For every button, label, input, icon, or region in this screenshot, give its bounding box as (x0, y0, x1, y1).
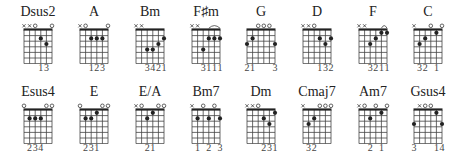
nut (303, 28, 332, 30)
chord-diagram: Bm7123 (178, 80, 234, 160)
finger-dot-icon (156, 42, 160, 46)
muted-string-icon (78, 24, 81, 27)
chord-diagram: Esus4234 (10, 80, 66, 160)
fingering-label: 3111 (178, 62, 234, 74)
finger-dot-icon (312, 116, 316, 120)
fingering-label: 13 (10, 62, 66, 74)
finger-number: 1 (377, 142, 385, 154)
nut (359, 28, 388, 30)
finger-dot-icon (245, 42, 249, 46)
finger-dot-icon (329, 36, 333, 40)
chord-diagram: F♯m3111 (178, 0, 234, 80)
finger-dot-icon (95, 36, 99, 40)
open-string-icon (363, 104, 367, 108)
nut (359, 108, 388, 110)
open-string-icon (201, 104, 205, 108)
finger-dot-icon (379, 31, 383, 35)
fretboard-grid (233, 0, 289, 64)
muted-string-icon (357, 24, 360, 27)
finger-number: 2 (205, 142, 213, 154)
fretboard-grid (233, 80, 289, 144)
nut (24, 28, 53, 30)
finger-dot-icon (201, 48, 205, 52)
finger-number: 1 (432, 62, 440, 74)
nut (80, 108, 109, 110)
finger-dot-icon (434, 111, 438, 115)
finger-dot-icon (262, 116, 266, 120)
open-string-icon (140, 104, 144, 108)
fretboard-grid (400, 0, 456, 64)
muted-string-icon (28, 24, 31, 27)
fingering-label: 321 (400, 62, 456, 74)
finger-dot-icon (418, 42, 422, 46)
finger-dot-icon (307, 122, 311, 126)
nut (136, 28, 165, 30)
nut (247, 108, 276, 110)
finger-dot-icon (218, 116, 222, 120)
fretboard-grid (289, 0, 345, 64)
finger-number: 4 (438, 142, 446, 154)
open-string-icon (157, 104, 161, 108)
finger-dot-icon (440, 122, 444, 126)
open-string-icon (256, 104, 260, 108)
finger-dot-icon (207, 116, 211, 120)
finger-dot-icon (89, 36, 93, 40)
finger-dot-icon (273, 111, 277, 115)
muted-string-icon (301, 104, 304, 107)
open-string-icon (22, 104, 26, 108)
muted-string-icon (301, 24, 304, 27)
fretboard-grid (400, 80, 456, 144)
muted-string-icon (140, 24, 143, 27)
finger-number: 1 (93, 142, 101, 154)
finger-dot-icon (318, 36, 322, 40)
finger-dot-icon (379, 111, 383, 115)
open-string-icon (423, 104, 427, 108)
open-string-icon (78, 104, 82, 108)
muted-string-icon (357, 104, 360, 107)
finger-dot-icon (267, 122, 271, 126)
finger-dot-icon (218, 36, 222, 40)
open-string-icon (324, 104, 328, 108)
finger-dot-icon (145, 116, 149, 120)
nut (136, 108, 165, 110)
muted-string-icon (251, 104, 254, 107)
open-string-icon (312, 24, 316, 28)
nut (192, 28, 221, 30)
fretboard-grid (345, 0, 401, 64)
finger-dot-icon (39, 36, 43, 40)
finger-dot-icon (28, 116, 32, 120)
open-string-icon (106, 24, 110, 28)
muted-string-icon (196, 24, 199, 27)
fretboard-grid (66, 0, 122, 64)
finger-dot-icon (385, 31, 389, 35)
finger-dot-icon (84, 116, 88, 120)
open-string-icon (329, 104, 333, 108)
finger-dot-icon (39, 116, 43, 120)
open-string-icon (374, 104, 378, 108)
chord-diagram: E/A21 (122, 80, 178, 160)
fretboard-grid (289, 80, 345, 144)
chord-diagram: E231 (66, 80, 122, 160)
finger-number: 1 (160, 62, 168, 74)
fingering-label: 213 (233, 62, 289, 74)
chord-diagram: Bm3421 (122, 0, 178, 80)
finger-dot-icon (374, 36, 378, 40)
fingering-label: 32 (289, 142, 345, 154)
fingering-label: 3421 (122, 62, 178, 74)
fingering-label: 21 (122, 142, 178, 154)
finger-dot-icon (434, 31, 438, 35)
finger-dot-icon (207, 36, 211, 40)
finger-number: 3 (216, 142, 224, 154)
nut (414, 28, 443, 30)
fingering-label: 314 (400, 142, 456, 154)
open-string-icon (213, 104, 217, 108)
open-string-icon (385, 104, 389, 108)
finger-dot-icon (412, 122, 416, 126)
open-string-icon (45, 104, 49, 108)
finger-number: 3 (98, 62, 106, 74)
finger-number: 2 (421, 62, 429, 74)
finger-number: 2 (366, 142, 374, 154)
fretboard-grid (122, 80, 178, 144)
finger-dot-icon (33, 116, 37, 120)
chord-diagram: Dsus213 (10, 0, 66, 80)
